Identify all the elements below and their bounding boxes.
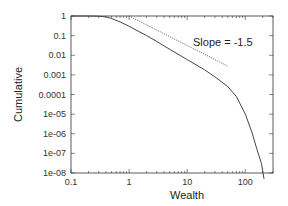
x-tick-label: 0.1 xyxy=(65,177,78,187)
y-tick-label: 0.0001 xyxy=(38,90,66,100)
y-tick-label: 1e-06 xyxy=(43,129,66,139)
y-tick-label: 0.001 xyxy=(43,70,66,80)
x-axis-label: Wealth xyxy=(170,189,204,201)
x-tick-label: 100 xyxy=(238,177,253,187)
x-tick-label: 1 xyxy=(127,177,132,187)
y-tick-label: 0.1 xyxy=(53,31,66,41)
y-tick-label: 1e-08 xyxy=(43,168,66,178)
y-tick-label: 1 xyxy=(61,11,66,21)
y-tick-label: 1e-05 xyxy=(43,109,66,119)
y-tick-label: 0.01 xyxy=(48,50,66,60)
y-axis-label: Cumulative xyxy=(12,67,24,122)
chart: 0.111010010.10.010.0010.00011e-051e-061e… xyxy=(0,0,288,206)
slope-annotation: Slope = -1.5 xyxy=(193,36,253,48)
x-tick-label: 10 xyxy=(182,177,192,187)
y-tick-label: 1e-07 xyxy=(43,148,66,158)
